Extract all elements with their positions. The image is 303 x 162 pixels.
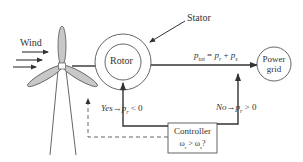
wind-arrows-icon	[13, 52, 48, 67]
rotor-label: Rotor	[110, 56, 133, 66]
stator-label: Stator	[187, 13, 211, 23]
controller-condition: ωr > ωs?	[168, 140, 217, 150]
diagram-canvas	[0, 0, 303, 162]
no-branch-label: No→pr > 0	[216, 103, 256, 114]
stator-pointer-arrow	[150, 21, 185, 42]
no-branch-line	[217, 74, 238, 124]
power-grid-label-line2: grid	[267, 64, 282, 74]
power-grid-label: Power grid	[259, 54, 289, 74]
yes-branch-label: Yes→pr < 0	[101, 104, 143, 115]
wind-label: Wind	[20, 38, 42, 48]
controller-title: Controller	[168, 127, 217, 136]
ptot-equation: ptot = pr + ps	[194, 51, 238, 62]
power-grid-label-line1: Power	[263, 54, 286, 64]
